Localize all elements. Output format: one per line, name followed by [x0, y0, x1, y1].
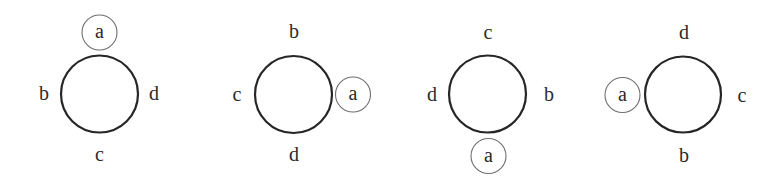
label-right: b: [544, 83, 554, 105]
figure-2: b c a d: [233, 20, 371, 165]
label-bottom: a: [484, 144, 493, 166]
figure-3: c d b a: [427, 21, 554, 174]
main-circle: [645, 57, 721, 133]
figure-1: a b d c: [39, 15, 159, 165]
label-left: b: [39, 82, 49, 104]
label-bottom: b: [679, 144, 689, 166]
figure-4: d a c b: [605, 21, 747, 166]
label-top: c: [484, 21, 493, 43]
label-top: a: [95, 20, 104, 42]
label-bottom: c: [95, 143, 104, 165]
label-right: c: [738, 84, 747, 106]
diagram-canvas: a b d c b c a d c d b a d a c b: [0, 0, 776, 183]
label-bottom: d: [289, 143, 299, 165]
main-circle: [449, 56, 526, 133]
label-top: b: [289, 20, 299, 42]
label-left: d: [427, 83, 437, 105]
label-right: d: [149, 82, 159, 104]
label-left: a: [618, 83, 627, 105]
main-circle: [255, 56, 332, 133]
main-circle: [61, 56, 138, 133]
label-right: a: [349, 82, 358, 104]
label-top: d: [679, 21, 689, 43]
label-left: c: [233, 83, 242, 105]
